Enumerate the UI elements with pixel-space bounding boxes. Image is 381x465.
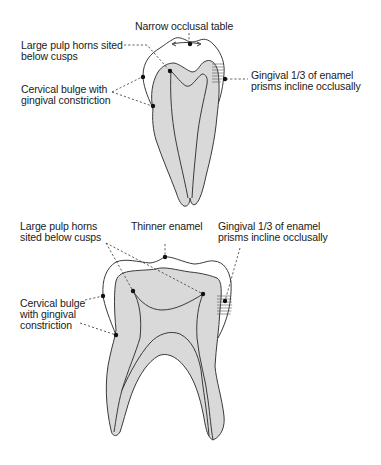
label-large-pulp-horns-bottom: Large pulp horns sited below cusps: [20, 221, 101, 243]
marker-enamel-prisms-molar: [223, 299, 227, 303]
marker-gingival-constriction-molar: [114, 333, 118, 337]
marker-thinner-enamel: [163, 255, 167, 259]
label-thinner-enamel: Thinner enamel: [131, 221, 203, 232]
marker-gingival-constriction: [151, 104, 155, 108]
leader-prisms-bottom: [225, 248, 240, 301]
label-cervical-bulge-bottom: Cervical bulge with gingival constrictio…: [20, 298, 85, 331]
marker-enamel-prisms: [223, 77, 227, 81]
occlusal-table-arrow: [173, 43, 200, 45]
tooth-diagram: Narrow occlusal table Large pulp horns s…: [0, 0, 381, 465]
molar-tooth: [80, 243, 240, 440]
label-enamel-prisms-bottom: Gingival 1/3 of enamel prisms incline oc…: [218, 221, 328, 243]
marker-occlusal-table: [188, 42, 192, 46]
label-narrow-occlusal-table: Narrow occlusal table: [135, 21, 233, 32]
marker-cervical-bulge-molar: [101, 294, 105, 298]
leader-cervical-top-1: [112, 77, 142, 92]
marker-cervical-bulge: [141, 75, 145, 79]
leader-cervical-bottom-2: [80, 323, 116, 335]
label-enamel-prisms-top: Gingival 1/3 of enamel prisms incline oc…: [251, 70, 361, 92]
marker-pulp-horn-mesial: [131, 289, 135, 293]
leader-cervical-bottom-1: [85, 296, 103, 300]
label-large-pulp-horns-top: Large pulp horns sited below cusps: [21, 40, 123, 62]
marker-pulp-horn-distal: [201, 292, 205, 296]
premolar-tooth: [112, 33, 248, 206]
marker-pulp-horn: [168, 69, 172, 73]
label-cervical-bulge-top: Cervical bulge with gingival constrictio…: [21, 84, 111, 106]
leader-cervical-top-2: [112, 92, 152, 106]
